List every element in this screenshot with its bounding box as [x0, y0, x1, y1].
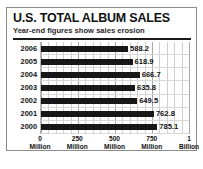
bar-value-label: 785.1: [159, 123, 178, 131]
x-tick-unit: Million: [67, 143, 88, 151]
bar: [41, 98, 137, 104]
x-tick-number: 1: [179, 135, 199, 143]
x-tick-label: 750Million: [141, 135, 162, 150]
gridline-horizontal: [41, 120, 189, 121]
bar-value-label: 588.2: [130, 45, 149, 53]
year-label: 2006: [21, 45, 37, 53]
bar: [41, 124, 157, 130]
year-label: 2004: [21, 71, 37, 79]
x-tick-number: 250: [67, 135, 88, 143]
bar: [41, 59, 133, 65]
x-tick-unit: Million: [104, 143, 125, 151]
chart-header: U.S. TOTAL ALBUM SALES Year-end figures …: [7, 8, 196, 36]
year-label: 2003: [21, 84, 37, 92]
year-label: 2005: [21, 58, 37, 66]
chart-subtitle: Year-end figures show sales erosion: [13, 26, 196, 36]
gridline-horizontal: [41, 94, 189, 95]
gridline-horizontal: [41, 54, 189, 55]
header-divider: [13, 38, 191, 40]
x-tick-unit: Million: [141, 143, 162, 151]
x-tick-label: 1Billion: [179, 135, 199, 150]
gridline-horizontal: [41, 67, 189, 68]
gridline-horizontal: [41, 80, 189, 81]
x-tick-label: 0Million: [30, 135, 51, 150]
gridline-horizontal: [41, 107, 189, 108]
x-tick-number: 750: [141, 135, 162, 143]
chart-panel: U.S. TOTAL ALBUM SALES Year-end figures …: [6, 7, 197, 151]
bar: [41, 85, 135, 91]
bar-value-label: 649.5: [139, 97, 158, 105]
x-tick-number: 500: [104, 135, 125, 143]
gridline-horizontal: [41, 133, 189, 134]
bar: [41, 111, 154, 117]
x-tick-unit: Billion: [179, 143, 199, 151]
x-tick-label: 500Million: [104, 135, 125, 150]
bar-value-label: 618.9: [135, 58, 154, 66]
bars-region: 588.2618.9666.7635.8649.5762.8785.1: [40, 42, 189, 134]
gridline: [189, 42, 190, 134]
x-axis-tick-labels: 0Million250Million500Million750Million1B…: [40, 135, 189, 153]
bar: [41, 46, 128, 52]
bar-value-label: 666.7: [142, 71, 161, 79]
chart-title: U.S. TOTAL ALBUM SALES: [13, 12, 196, 25]
plot-area: 2006200520042003200220012000 588.2618.96…: [13, 42, 189, 134]
bar-value-label: 635.8: [137, 84, 156, 92]
bar: [41, 72, 140, 78]
x-tick-label: 250Million: [67, 135, 88, 150]
year-axis-labels: 2006200520042003200220012000: [13, 42, 39, 134]
year-label: 2001: [21, 110, 37, 118]
year-label: 2002: [21, 97, 37, 105]
year-label: 2000: [21, 123, 37, 131]
bar-value-label: 762.8: [156, 110, 175, 118]
x-tick-unit: Million: [30, 143, 51, 151]
x-tick-number: 0: [30, 135, 51, 143]
